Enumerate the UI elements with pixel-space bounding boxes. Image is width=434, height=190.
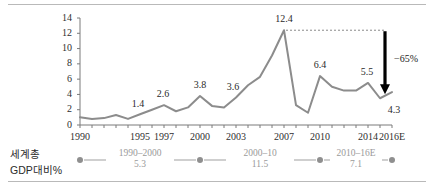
period-segment: 2010–16E7.1 — [336, 148, 375, 170]
data-point-value-label: 4.3 — [388, 104, 401, 115]
y-axis-tick-label: 14 — [54, 12, 72, 23]
data-point-value-label: 3.8 — [194, 79, 207, 90]
period-value-label: 11.5 — [243, 159, 276, 170]
data-point-value-label: 3.6 — [227, 81, 240, 92]
data-point-value-label: 6.4 — [314, 59, 327, 70]
decline-arrow-icon — [380, 31, 390, 94]
data-point-value-label: 5.5 — [361, 66, 374, 77]
y-axis-tick-label: 2 — [54, 103, 72, 114]
y-axis-tick-label: 4 — [54, 88, 72, 99]
period-marker-dot — [197, 157, 203, 163]
period-marker-dot — [77, 157, 83, 163]
x-axis-tick-label: 1995 — [130, 131, 150, 142]
period-range-label: 1990–2000 — [119, 148, 162, 159]
data-point-value-label: 1.4 — [132, 98, 145, 109]
period-marker-dot — [317, 157, 323, 163]
period-summary-band: 세계총 GDP대비% 1990–20005.32000–1011.52010–1… — [0, 146, 434, 180]
y-axis-tick-label: 10 — [54, 42, 72, 53]
x-axis-tick-label: 1990 — [70, 131, 90, 142]
x-axis-tick-label: 1997 — [154, 131, 174, 142]
y-axis-tick-label: 6 — [54, 73, 72, 84]
x-axis-tick-label: 2016E — [379, 131, 405, 142]
y-axis-tick-label: 12 — [54, 27, 72, 38]
x-axis-tick-label: 2014 — [358, 131, 378, 142]
period-marker-dot — [389, 157, 395, 163]
x-axis-tick-label: 2000 — [190, 131, 210, 142]
period-value-label: 7.1 — [336, 159, 375, 170]
period-range-label: 2000–10 — [243, 148, 276, 159]
period-range-label: 2010–16E — [336, 148, 375, 159]
data-point-value-label: 2.6 — [157, 88, 170, 99]
y-axis-tick-label: 0 — [54, 119, 72, 130]
data-series-line — [80, 30, 392, 119]
period-segment: 2000–1011.5 — [243, 148, 276, 170]
chart-figure: 02468101214 1990199519972000200320072010… — [0, 0, 434, 190]
period-segment: 1990–20005.3 — [119, 148, 162, 170]
x-axis-tick-label: 2003 — [226, 131, 246, 142]
x-axis-tick-label: 2010 — [310, 131, 330, 142]
y-axis-tick-label: 8 — [54, 57, 72, 68]
x-axis-tick-label: 2007 — [274, 131, 294, 142]
decline-percentage-label: −65% — [394, 53, 418, 64]
period-value-label: 5.3 — [119, 159, 162, 170]
data-point-value-label: 12.4 — [275, 13, 293, 24]
